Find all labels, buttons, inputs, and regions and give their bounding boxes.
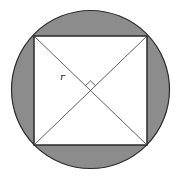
inscribed-square-diagram: r — [0, 0, 184, 181]
